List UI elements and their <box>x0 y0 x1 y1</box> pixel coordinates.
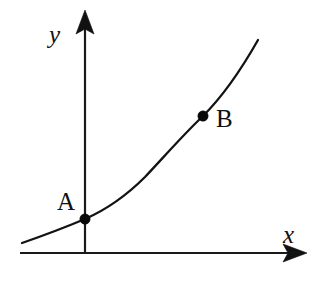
y-axis-label: y <box>49 22 60 47</box>
x-axis-label: x <box>283 222 294 247</box>
exponential-curve-figure: A B y x <box>0 0 314 282</box>
point-a-marker <box>80 214 90 224</box>
figure-canvas <box>0 0 314 282</box>
point-b-marker <box>198 111 208 121</box>
point-a-label: A <box>57 189 75 214</box>
point-b-label: B <box>216 106 233 131</box>
